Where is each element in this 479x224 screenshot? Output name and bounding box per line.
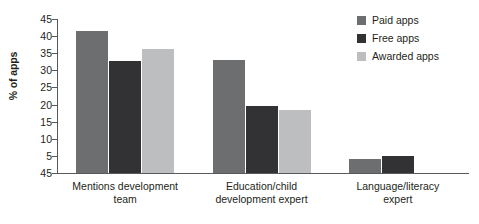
y-tick-label: 10 [18, 134, 52, 145]
x-axis-label-line: Language/literacy [323, 180, 473, 193]
x-axis-label: Mentions developmentteam [50, 180, 200, 206]
y-tick-label: 30 [18, 65, 52, 76]
legend-swatch-icon [357, 34, 366, 43]
legend-swatch-icon [357, 52, 366, 61]
y-tick: 20 [0, 105, 52, 106]
legend-swatch-icon [357, 16, 366, 25]
bar [76, 31, 108, 173]
x-axis-label-line: Education/child [187, 180, 337, 193]
y-tick-label: 45 [18, 14, 52, 25]
bar [213, 60, 245, 173]
bar [382, 156, 414, 173]
bar [349, 159, 381, 173]
x-axis-label: Language/literacyexpert [323, 180, 473, 206]
legend-item: Free apps [357, 30, 439, 46]
y-tick-label: 35 [18, 48, 52, 59]
y-tick-label: 15 [18, 117, 52, 128]
y-tick: 10 [0, 139, 52, 140]
legend-item: Awarded apps [357, 48, 439, 64]
legend-label: Awarded apps [372, 51, 439, 62]
bar [246, 106, 278, 173]
y-tick: 45 [0, 173, 52, 174]
y-tick: 40 [0, 36, 52, 37]
y-tick-label: 5 [18, 151, 52, 162]
x-axis-line [57, 173, 469, 174]
y-tick: 45 [0, 19, 52, 20]
legend-label: Paid apps [372, 15, 419, 26]
y-tick: 25 [0, 87, 52, 88]
chart-legend: Paid appsFree appsAwarded apps [357, 12, 439, 66]
y-tick: 35 [0, 53, 52, 54]
y-tick-label: 25 [18, 82, 52, 93]
x-axis-label-line: Mentions development [50, 180, 200, 193]
y-tick: 15 [0, 122, 52, 123]
y-tick: 30 [0, 70, 52, 71]
x-axis-label-line: expert [323, 193, 473, 206]
x-axis-label: Education/childdevelopment expert [187, 180, 337, 206]
bar-chart: % of apps 4540353025201510545 Mentions d… [0, 0, 479, 224]
y-tick-label: 20 [18, 100, 52, 111]
bar [109, 61, 141, 173]
y-tick: 5 [0, 156, 52, 157]
bar [279, 110, 311, 173]
x-axis-label-line: team [50, 193, 200, 206]
y-tick-label: 40 [18, 31, 52, 42]
legend-label: Free apps [372, 33, 419, 44]
bar [142, 49, 174, 173]
x-axis-label-line: development expert [187, 193, 337, 206]
y-tick-label: 45 [18, 168, 52, 179]
legend-item: Paid apps [357, 12, 439, 28]
